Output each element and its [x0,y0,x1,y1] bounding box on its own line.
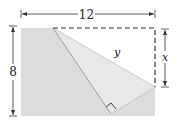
height-label: 8 [9,65,17,79]
folded-paper-diagram: 12 8 x y [0,0,177,121]
x-label: x [162,51,169,64]
arrowhead-down-icon [11,110,15,115]
arrowhead-down-icon [163,81,167,86]
arrowhead-left-icon [22,12,27,16]
arrowhead-up-icon [11,27,15,32]
y-label: y [113,46,121,59]
arrowhead-right-icon [149,12,154,16]
width-label: 12 [79,8,94,22]
arrowhead-up-icon [163,30,167,35]
